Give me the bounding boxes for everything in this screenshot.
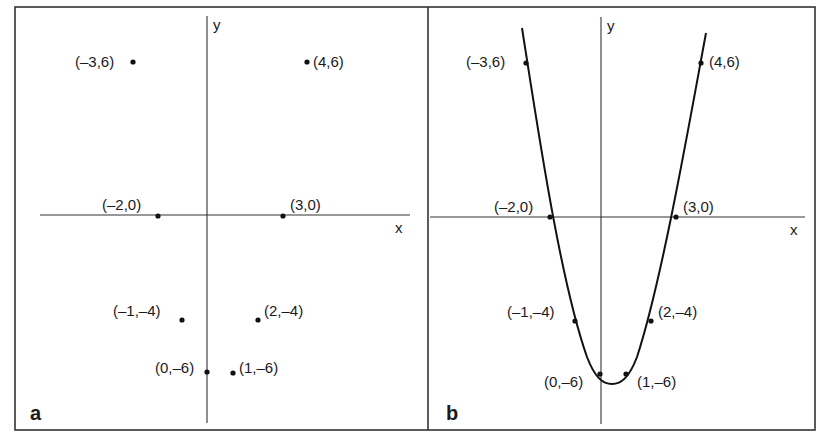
data-point [623, 371, 628, 376]
data-point [130, 59, 135, 64]
y-axis-label: y [607, 17, 615, 34]
panel-label: a [30, 402, 42, 424]
data-point [572, 318, 577, 323]
point-label: (2,–4) [264, 302, 303, 319]
data-point [179, 317, 184, 322]
panel-b: y x (–3,6) (4,6) (–2,0) (3,0) (–1,–4) (2… [430, 17, 805, 424]
point-label: (1,–6) [637, 373, 676, 390]
figure: y x (–3,6) (4,6) (–2,0) (3,0) (–1,–4) (2… [0, 0, 825, 444]
point-label: (–3,6) [466, 53, 505, 70]
point-label: (4,6) [709, 53, 740, 70]
y-axis-label: y [213, 16, 221, 33]
data-point [304, 59, 309, 64]
data-point [597, 371, 602, 376]
data-point [698, 60, 703, 65]
data-point [547, 214, 552, 219]
point-label: (0,–6) [544, 373, 583, 390]
point-label: (0,–6) [155, 359, 194, 376]
data-point [230, 370, 235, 375]
data-point [523, 60, 528, 65]
point-label: (1,–6) [239, 359, 278, 376]
point-label: (3,0) [290, 196, 321, 213]
panel-label: b [446, 402, 458, 424]
point-label: (3,0) [683, 198, 714, 215]
x-axis-label: x [395, 219, 403, 236]
x-axis-label: x [790, 221, 798, 238]
data-point [673, 214, 678, 219]
data-point [204, 369, 209, 374]
point-label: (4,6) [313, 53, 344, 70]
point-label: (–2,0) [494, 198, 533, 215]
point-label: (–2,0) [102, 196, 141, 213]
data-point [280, 213, 285, 218]
figure-frame [15, 7, 815, 430]
parabola-curve [522, 28, 706, 384]
point-label: (–3,6) [75, 53, 114, 70]
data-point [155, 213, 160, 218]
point-label: (–1,–4) [507, 303, 555, 320]
point-label: (2,–4) [658, 303, 697, 320]
panel-a: y x (–3,6) (4,6) (–2,0) (3,0) (–1,–4) (2… [30, 16, 410, 424]
data-point [255, 317, 260, 322]
data-point [648, 318, 653, 323]
point-label: (–1,–4) [113, 302, 161, 319]
